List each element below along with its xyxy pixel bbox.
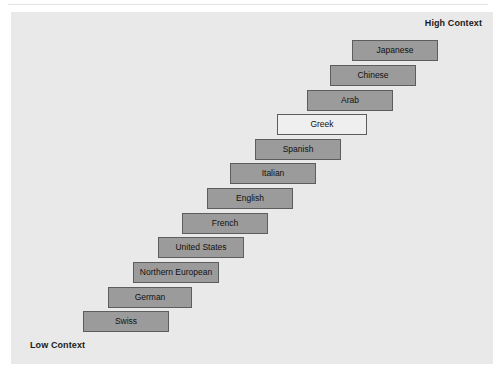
culture-box: Italian	[230, 163, 316, 184]
culture-box: Northern European	[133, 262, 219, 283]
culture-box: English	[207, 188, 293, 209]
culture-box: United States	[158, 237, 244, 258]
culture-box: Japanese	[352, 40, 438, 61]
low-context-label: Low Context	[30, 340, 85, 350]
context-culture-figure: High Context Low Context JapaneseChinese…	[0, 0, 496, 368]
culture-box: Greek	[277, 114, 367, 135]
top-divider-rule	[8, 4, 488, 5]
culture-box: Swiss	[83, 311, 169, 332]
high-context-label: High Context	[425, 18, 482, 28]
culture-box: French	[182, 213, 268, 234]
culture-box: German	[108, 287, 192, 308]
chart-panel: High Context Low Context JapaneseChinese…	[11, 12, 493, 364]
culture-box: Spanish	[255, 139, 341, 160]
culture-box: Arab	[307, 90, 393, 111]
culture-box: Chinese	[330, 65, 416, 86]
